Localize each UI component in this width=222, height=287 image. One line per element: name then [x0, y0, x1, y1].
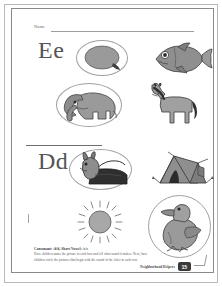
sun-illustration[interactable]	[76, 199, 124, 245]
page-footer: Neighborhood Helpers 15	[140, 262, 191, 271]
footer-instructions: Consonant: /d/d, Short Vowel: /e/e Have …	[34, 247, 174, 263]
duck-illustration[interactable]	[156, 202, 204, 252]
section-letter-dd: Dd	[38, 149, 68, 173]
egg-illustration[interactable]	[83, 45, 123, 72]
imprint-label: Neighborhood Helpers	[140, 265, 175, 269]
section-divider	[26, 145, 102, 146]
page-corner-fold	[194, 255, 207, 266]
tent-illustration[interactable]	[152, 150, 214, 189]
elephant-illustration[interactable]	[61, 89, 118, 122]
section-letter-ee: Ee	[38, 38, 64, 62]
registration-tick	[28, 214, 29, 223]
page-number-badge: 15	[178, 262, 191, 271]
dog-illustration[interactable]	[73, 151, 129, 188]
name-write-line[interactable]	[51, 31, 194, 32]
horse-illustration[interactable]	[142, 83, 200, 125]
name-field-row: Name	[34, 24, 194, 35]
name-label: Name	[34, 24, 45, 29]
worksheet-sheet: Name Ee	[11, 8, 214, 273]
worksheet-page: Name Ee	[0, 0, 222, 287]
fish-illustration[interactable]	[152, 40, 214, 75]
